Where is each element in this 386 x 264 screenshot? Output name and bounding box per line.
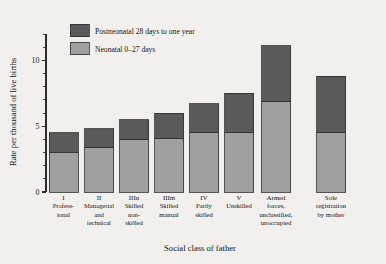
y-tick-label: 5 — [36, 122, 40, 131]
category-label: non- — [128, 211, 140, 218]
category-code-label: IV — [200, 194, 207, 201]
bar-segment-postneonatal — [120, 120, 149, 140]
infant-mortality-stacked-bar-chart: 0510 IProfess-ionalIIManagerialandtechni… — [0, 0, 386, 264]
bar-segment-neonatal — [120, 139, 149, 192]
bar-segment-neonatal — [317, 133, 346, 192]
bar-segment-neonatal — [262, 101, 291, 192]
bar-segment-postneonatal — [85, 129, 114, 147]
category-label: Skilled — [160, 202, 179, 209]
category-label: skilled — [195, 211, 213, 218]
bar-group — [262, 46, 291, 192]
category-code-label: Sole — [325, 194, 337, 201]
category-label: technical — [87, 219, 111, 226]
category-label: Managerial — [84, 202, 114, 209]
bar-group — [120, 120, 149, 192]
chart-container: 0510 IProfess-ionalIIManagerialandtechni… — [0, 0, 386, 264]
category-label: Skilled — [125, 202, 144, 209]
category-label: Profess- — [53, 202, 75, 209]
category-label: unclassified, — [259, 211, 292, 218]
category-label: skilled — [125, 219, 143, 226]
bar-segment-neonatal — [49, 153, 78, 193]
bar-segment-postneonatal — [190, 104, 219, 133]
category-label: registration — [316, 202, 347, 209]
category-label: and — [94, 211, 104, 218]
category-label: Partly — [196, 202, 212, 209]
bar-group — [317, 76, 346, 192]
bar-segment-postneonatal — [155, 113, 184, 138]
legend-swatch — [70, 24, 89, 37]
category-label: by mother — [318, 211, 346, 218]
legend-label: Postneonatal 28 days to one year — [95, 27, 195, 36]
category-label: unoccupied — [261, 219, 292, 226]
category-code-label: Armed — [266, 194, 286, 201]
category-label: manual — [159, 211, 179, 218]
bar-group — [85, 129, 114, 192]
legend-swatch — [70, 42, 89, 55]
category-label: ional — [57, 211, 70, 218]
y-tick-label: 10 — [32, 56, 40, 65]
x-axis-title: Social class of father — [164, 243, 236, 253]
bar-segment-postneonatal — [317, 76, 346, 133]
bar-group — [49, 133, 78, 192]
bar-segment-postneonatal — [49, 133, 78, 153]
bar-segment-neonatal — [190, 133, 219, 192]
category-label: Unskilled — [226, 202, 252, 209]
bar-segment-neonatal — [225, 133, 254, 192]
bar-segment-postneonatal — [262, 46, 291, 101]
bar-group — [155, 113, 184, 192]
bar-group — [190, 104, 219, 192]
category-code-label: IIIm — [163, 194, 176, 201]
y-axis-title: Rate per thousand of live births — [8, 57, 18, 166]
bar-segment-postneonatal — [225, 93, 254, 133]
category-code-label: IIIn — [129, 194, 140, 201]
category-code-label: II — [97, 194, 102, 201]
legend-label: Neonatal 0–27 days — [95, 45, 155, 54]
bar-segment-neonatal — [85, 147, 114, 192]
category-code-label: V — [237, 194, 242, 201]
bar-segment-neonatal — [155, 138, 184, 192]
y-tick-label: 0 — [36, 188, 40, 197]
category-label: forces, — [267, 202, 285, 209]
bar-group — [225, 93, 254, 192]
